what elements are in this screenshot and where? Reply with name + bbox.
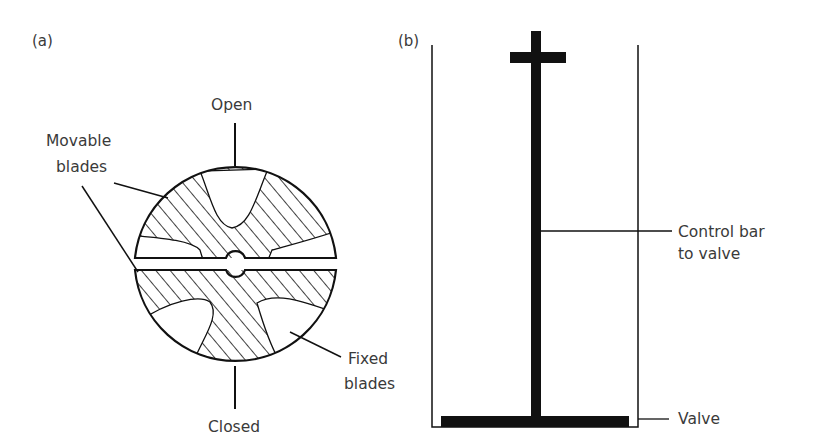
panel-b-label: (b) <box>398 32 419 50</box>
movable-blade-disc <box>130 160 340 260</box>
fixed-blades-leader <box>290 332 341 357</box>
closed-label: Closed <box>208 418 260 436</box>
movable-blades-label-line1: Movable <box>46 132 111 150</box>
panel-a-label: (a) <box>32 32 53 50</box>
fixed-blades-label-line1: Fixed <box>348 350 388 368</box>
movable-blades-leader-top <box>114 183 168 198</box>
movable-blades-leader-bottom <box>82 186 138 272</box>
control-rod <box>531 31 541 419</box>
valve-label: Valve <box>678 410 720 428</box>
fixed-blades-label-line2: blades <box>344 375 395 393</box>
open-label: Open <box>211 96 252 114</box>
valve-plate <box>441 416 629 427</box>
fixed-blade-disc <box>130 265 340 370</box>
control-bar-label-line1: Control bar <box>678 223 765 241</box>
movable-blades-label-line2: blades <box>56 158 107 176</box>
control-handle <box>510 52 566 63</box>
diagram-canvas: (a) Open Movable blades Fixed blades Clo… <box>0 0 813 447</box>
control-bar-label-line2: to valve <box>678 245 740 263</box>
